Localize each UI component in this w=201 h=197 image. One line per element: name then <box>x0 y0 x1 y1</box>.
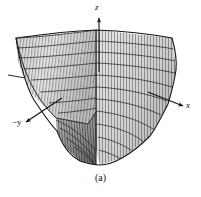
figure-caption: (a) <box>0 172 201 183</box>
surface-sheet-left <box>15 30 97 124</box>
surface-plot-svg <box>0 0 201 197</box>
surface-sheet-right <box>96 30 176 165</box>
surface-body <box>15 30 176 165</box>
axis-label-x: x <box>186 101 190 110</box>
axis-label-z: z <box>95 3 99 12</box>
figure-panel: z x −y (a) <box>0 0 201 197</box>
axis-label-minus-y: −y <box>12 118 22 127</box>
